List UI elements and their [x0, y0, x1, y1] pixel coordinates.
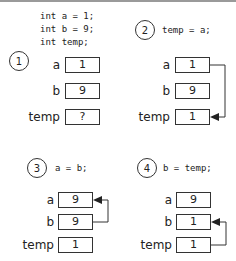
arrows-layer: [0, 0, 236, 261]
arrow-a-to-temp: [210, 65, 225, 117]
arrow-temp-to-b: [211, 222, 226, 245]
